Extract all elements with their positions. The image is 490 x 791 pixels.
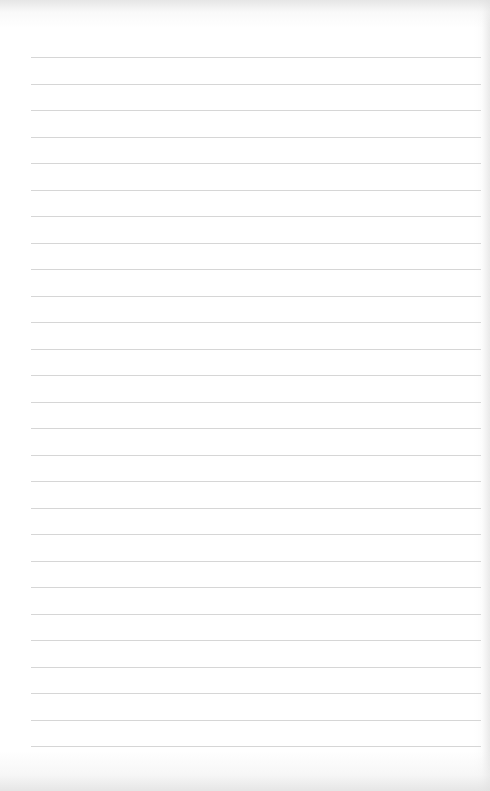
- ruled-line: [31, 640, 481, 641]
- ruled-line: [31, 110, 481, 111]
- ruled-line: [31, 402, 481, 403]
- lined-paper-sheet: [0, 0, 490, 791]
- ruled-line: [31, 667, 481, 668]
- ruled-line: [31, 84, 481, 85]
- ruled-line: [31, 508, 481, 509]
- ruled-line: [31, 455, 481, 456]
- ruled-line: [31, 720, 481, 721]
- ruled-line: [31, 614, 481, 615]
- ruled-line: [31, 349, 481, 350]
- ruled-line: [31, 746, 481, 747]
- ruled-line: [31, 693, 481, 694]
- ruled-line: [31, 561, 481, 562]
- ruled-line: [31, 190, 481, 191]
- ruled-line: [31, 243, 481, 244]
- ruled-line: [31, 534, 481, 535]
- ruled-line: [31, 322, 481, 323]
- ruled-line: [31, 428, 481, 429]
- ruled-line: [31, 481, 481, 482]
- ruled-line: [31, 375, 481, 376]
- ruled-line: [31, 137, 481, 138]
- ruled-line: [31, 57, 481, 58]
- ruled-line: [31, 163, 481, 164]
- ruled-line: [31, 216, 481, 217]
- ruled-line: [31, 587, 481, 588]
- ruled-line: [31, 296, 481, 297]
- ruled-line: [31, 269, 481, 270]
